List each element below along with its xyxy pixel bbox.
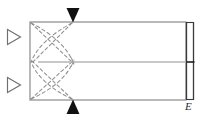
label-e: E	[185, 101, 192, 112]
arrow-left-upper-output	[8, 30, 21, 45]
diagram-canvas	[0, 0, 205, 122]
figure-root: E	[0, 0, 205, 122]
right-edge-strip	[187, 22, 195, 100]
arrow-left-lower-output	[8, 78, 21, 93]
arrow-bottom-incoming	[67, 100, 80, 115]
open-arrowheads	[8, 30, 21, 93]
arrow-top-incoming	[67, 8, 80, 23]
